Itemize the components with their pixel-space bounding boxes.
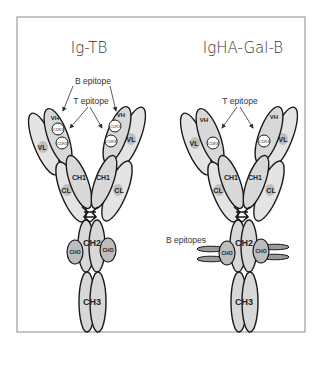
cdr3-label: CDR3 [106,140,116,144]
cho-label: CHO [221,250,232,256]
vh-label: VH [117,112,125,118]
cdr2-label: CDR2 [53,128,63,132]
ch1-label: CH1 [248,174,262,181]
b-epitopes-label: B epitopes [166,235,206,245]
cl-label: CL [266,187,276,194]
ch1-label: CH1 [96,174,110,181]
panel-title: IgHA-Gal-B [203,39,283,57]
ch3-label: CH3 [235,297,253,307]
ch3-label: CH3 [83,297,101,307]
ch2-label: CH2 [83,238,101,248]
vh-label: VH [200,117,208,123]
ch2-label: CH2 [235,238,253,248]
b-epitope-label: B epitope [75,76,111,86]
vl-label: VL [38,144,48,151]
panel-title: Ig-TB [71,39,107,57]
vh-label: VH [270,114,278,120]
cl-label: CL [61,187,71,194]
vl-label: VL [190,140,200,147]
ch1-label: CH1 [224,174,238,181]
cl-label: CL [114,187,124,194]
antibody-comparison-figure: Ig-TB B epitope T epitope VL VH CDR2 CDR… [0,0,322,365]
t-epitope-label: T epitope [222,96,258,106]
cdr2-label: CDR2 [110,125,120,129]
cdr3-label: CDR3 [208,142,218,146]
cho-label: CHO [255,248,266,254]
cho-label: CHO [102,247,113,253]
vh-label: VH [51,115,59,121]
cdr3-label: CDR3 [57,142,67,146]
vl-label: VL [279,136,289,143]
cdr3-label: CDR3 [259,140,269,144]
cho-label: CHO [69,249,80,255]
cl-label: CL [213,187,223,194]
t-epitope-label: T epitope [73,96,109,106]
ch1-label: CH1 [72,174,86,181]
vl-label: VL [127,136,137,143]
